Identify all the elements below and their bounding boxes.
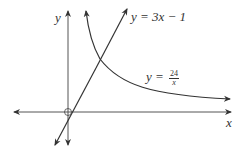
line-y-3x-minus-1-lower — [55, 68, 96, 145]
graph-diagram: y x y = 3x − 1 y = 24 x — [0, 0, 242, 148]
hyperbola-equation-label: y = 24 x — [146, 70, 179, 87]
graph-canvas — [0, 0, 242, 148]
fraction: 24 x — [169, 70, 179, 87]
hyperbola-label-prefix: y = — [146, 69, 164, 84]
y-axis-label: y — [55, 11, 61, 24]
x-axis-label: x — [226, 116, 232, 129]
fraction-denominator: x — [171, 79, 177, 87]
hyperbola-curve-upper — [86, 11, 100, 59]
line-equation-label: y = 3x − 1 — [131, 10, 186, 23]
